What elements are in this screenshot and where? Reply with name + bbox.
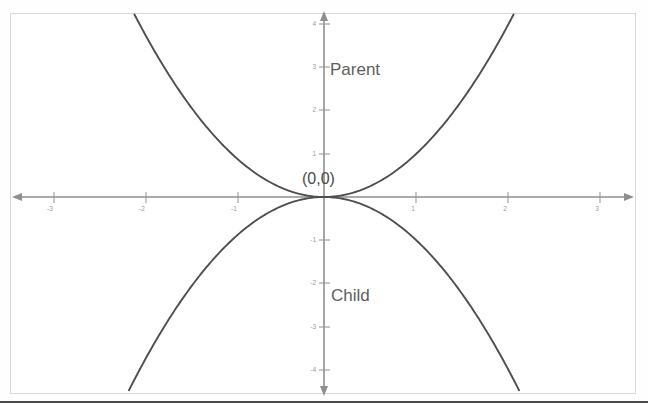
origin-label: (0,0) (302, 170, 335, 188)
x-tick-labels: -3 -2 -1 1 2 3 (47, 205, 599, 212)
y-tick-label: -1 (310, 236, 316, 243)
x-tick-label: -2 (139, 205, 145, 212)
x-tick-label: 2 (503, 205, 507, 212)
y-tick-label: 2 (312, 106, 316, 113)
x-tick-label: 3 (595, 205, 599, 212)
x-tick-label: -3 (47, 205, 53, 212)
child-curve-label: Child (331, 286, 370, 306)
coordinate-plot: -3 -2 -1 1 2 3 4 3 2 1 -1 -2 -3 -4 (0, 0, 648, 408)
y-tick-label: -4 (310, 366, 316, 373)
y-tick-label: 1 (312, 150, 316, 157)
y-tick-label: 3 (312, 63, 316, 70)
y-tick-label: -3 (310, 323, 316, 330)
screenshot-canvas: -3 -2 -1 1 2 3 4 3 2 1 -1 -2 -3 -4 Paren… (0, 0, 648, 408)
x-tick-label: 1 (411, 205, 415, 212)
bottom-rule (0, 401, 648, 403)
x-tick-label: -1 (231, 205, 237, 212)
y-axis (320, 11, 328, 396)
y-tick-label: -2 (310, 279, 316, 286)
y-tick-label: 4 (312, 20, 316, 27)
parent-curve-label: Parent (330, 60, 380, 80)
